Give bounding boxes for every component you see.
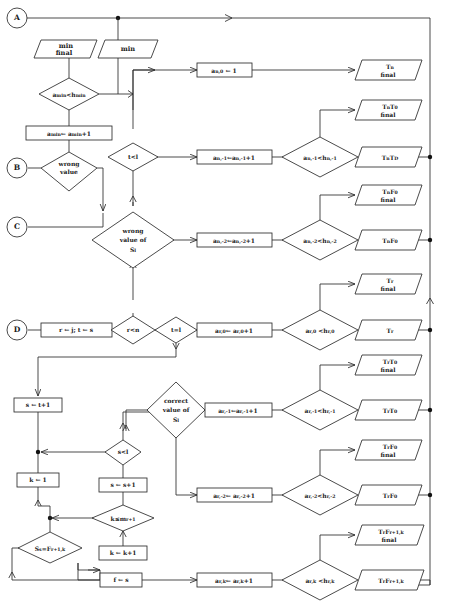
process-an1-inc[interactable]: an,-1←an,-1+1 bbox=[197, 150, 272, 164]
io-min-final[interactable]: min final bbox=[34, 40, 97, 58]
decision-correct-value-sl[interactable]: correct value of Sl bbox=[147, 382, 205, 438]
output-trt0-final[interactable]: TrT0 final bbox=[355, 355, 422, 375]
decision-t-lt-l[interactable]: t<l bbox=[108, 143, 158, 171]
connector-d-label: D bbox=[14, 325, 21, 334]
process-k-set-label: k ← 1 bbox=[29, 476, 47, 483]
output-trf0[interactable]: TrF0 bbox=[355, 485, 422, 505]
process-k-set[interactable]: k ← 1 bbox=[17, 473, 59, 487]
process-an2-inc[interactable]: an,-2←an,-2+1 bbox=[197, 233, 272, 247]
decision-ss-eq-f[interactable]: Ss=Fr+1,k bbox=[18, 532, 82, 563]
process-f-set[interactable]: f ← s bbox=[100, 573, 142, 587]
decision-r-lt-n[interactable]: r<n bbox=[111, 316, 155, 344]
central-spine bbox=[130, 70, 155, 330]
process-ar2-inc[interactable]: ar,-2← ar,-2+1 bbox=[197, 488, 272, 502]
process-s-set-label: s ← t+1 bbox=[26, 401, 51, 408]
decision-wrong-sl-line2: value of bbox=[119, 236, 147, 243]
connector-b-label: B bbox=[14, 163, 20, 172]
process-k-inc-label: k ← k+1 bbox=[110, 549, 137, 556]
output-tn-final-sub: final bbox=[381, 71, 397, 78]
process-k-inc[interactable]: k ← k+1 bbox=[99, 546, 147, 560]
process-s-inc[interactable]: s ← s+1 bbox=[99, 478, 147, 492]
process-ar1-inc[interactable]: ar,-1←ar,-1+1 bbox=[205, 403, 272, 417]
process-ar0-inc[interactable]: ar,0← ar,0+1 bbox=[197, 323, 272, 337]
output-trfrk-final[interactable]: TrFr+1,k final bbox=[355, 525, 424, 545]
process-amin-inc[interactable]: amin← amin+1 bbox=[26, 126, 112, 140]
process-an0-set[interactable]: an,0 ← 1 bbox=[197, 63, 252, 77]
decision-r-lt-n-label: r<n bbox=[127, 326, 140, 333]
decision-wrong-sl-line1: wrong bbox=[122, 227, 145, 235]
output-trf0-final[interactable]: TrF0 final bbox=[355, 440, 422, 460]
process-s-set[interactable]: s ← t+1 bbox=[14, 398, 62, 412]
process-f-set-label: f ← s bbox=[113, 576, 129, 583]
decision-ar2-cmp[interactable]: ar,-2<hr,-2 bbox=[282, 475, 358, 515]
decision-wrong-value[interactable]: wrong value bbox=[41, 152, 97, 191]
decision-t-eq-l[interactable]: t=l bbox=[155, 317, 197, 343]
output-tntd[interactable]: TnTD bbox=[355, 147, 422, 167]
io-min-final-line2: final bbox=[56, 49, 73, 57]
decision-t-eq-l-label: t=l bbox=[171, 326, 182, 333]
decision-an2-cmp[interactable]: an,-2<hn,-2 bbox=[282, 220, 358, 260]
output-tr-final-sub: final bbox=[381, 285, 397, 292]
decision-k-le-m[interactable]: k≤mr+1 bbox=[92, 505, 154, 531]
decision-s-lt-l-label: s<l bbox=[118, 448, 129, 455]
decision-correct-sl-line1: correct bbox=[164, 397, 188, 404]
connector-c[interactable]: C bbox=[7, 217, 27, 237]
decision-amin-lt-hmin[interactable]: amin<hmin bbox=[39, 78, 99, 110]
output-trt0-final-sub: final bbox=[381, 366, 397, 373]
connector-b[interactable]: B bbox=[7, 158, 27, 178]
process-init-rt-label: r ← j; t ← s bbox=[59, 326, 94, 334]
flowchart-canvas: A B C D min final min amin<hmin amin← am… bbox=[0, 0, 449, 609]
connector-a[interactable]: A bbox=[7, 8, 27, 28]
process-init-rt[interactable]: r ← j; t ← s bbox=[41, 323, 112, 337]
output-tnf0-final[interactable]: TnF0 final bbox=[355, 185, 422, 205]
decision-an1-cmp[interactable]: an,-1<hn,-1 bbox=[282, 137, 358, 177]
output-trfrk-final-sub: final bbox=[382, 536, 398, 543]
process-ark-inc[interactable]: ar,k← ar,k+1 bbox=[197, 573, 272, 587]
output-tnf0[interactable]: TnF0 bbox=[355, 230, 422, 250]
output-tr[interactable]: Tr bbox=[355, 320, 422, 340]
output-tn-final[interactable]: Tn final bbox=[355, 60, 422, 80]
connector-d[interactable]: D bbox=[7, 320, 27, 340]
decision-s-lt-l[interactable]: s<l bbox=[105, 440, 141, 465]
decision-wrong-value-sl[interactable]: wrong value of Sl bbox=[92, 212, 174, 268]
output-trt0[interactable]: TrT0 bbox=[355, 400, 422, 420]
connector-c-label: C bbox=[14, 222, 20, 231]
connector-a-label: A bbox=[13, 13, 20, 22]
io-min-label: min bbox=[121, 45, 135, 53]
decision-correct-sl-line2: value of bbox=[162, 406, 190, 413]
output-tr-final[interactable]: Tr final bbox=[355, 274, 422, 294]
output-tnt0-final-sub: final bbox=[381, 111, 397, 118]
output-tnf0-final-sub: final bbox=[381, 196, 397, 203]
output-trfrk[interactable]: TrFr+1,k bbox=[355, 570, 424, 590]
process-s-inc-label: s ← s+1 bbox=[110, 481, 135, 488]
decision-ar1-cmp[interactable]: ar,-1<hr,-1 bbox=[282, 390, 358, 430]
decision-ar0-cmp[interactable]: ar,0 <hr,0 bbox=[282, 310, 358, 350]
decision-wrong-value-line1: wrong bbox=[58, 160, 81, 168]
decision-wrong-value-line2: value bbox=[59, 168, 78, 175]
decision-ark-cmp[interactable]: ar,k <hr,k bbox=[282, 560, 358, 600]
output-trf0-final-sub: final bbox=[381, 451, 397, 458]
io-min[interactable]: min bbox=[98, 40, 158, 58]
decision-t-lt-l-label: t<l bbox=[128, 153, 139, 160]
output-tnt0-final[interactable]: TnT0 final bbox=[355, 100, 422, 120]
